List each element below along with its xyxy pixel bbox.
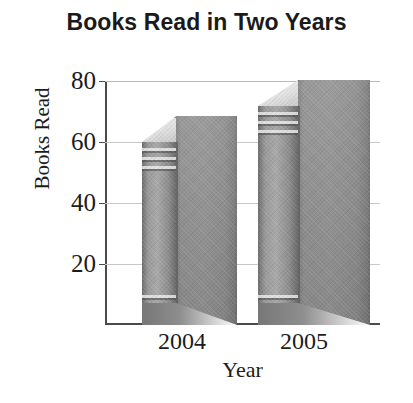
x-tick-label-2005: 2005 [249, 328, 359, 355]
bar-2004-spine-seam [176, 142, 178, 325]
y-tick-label-60: 60 [71, 128, 105, 156]
bar-2004-cover [176, 116, 237, 325]
y-axis-title: Books Read [30, 59, 55, 219]
x-axis-title: Year [105, 357, 380, 383]
bar-2005-spine [258, 106, 298, 325]
bar-2005[interactable] [258, 80, 370, 325]
bar-2004[interactable] [142, 116, 237, 325]
bar-2005-cover [298, 80, 370, 325]
bar-2005-spine-texture [258, 106, 298, 325]
plot-area: 80 60 40 20 [105, 81, 380, 325]
bar-2005-spine-seam [298, 106, 300, 325]
bar-2004-spine-bands-top [142, 148, 176, 172]
chart-container: Books Read in Two Years Books Read 80 60… [0, 0, 413, 403]
y-tick-label-20: 20 [71, 250, 105, 278]
y-tick-label-40: 40 [71, 189, 105, 217]
chart-title: Books Read in Two Years [0, 9, 413, 36]
bar-2004-cover-shade [176, 116, 237, 325]
bar-2005-spine-bands-top [258, 112, 298, 136]
bar-2005-cover-shade [298, 80, 370, 325]
y-tick-label-80: 80 [71, 67, 105, 95]
bar-2004-spine [142, 142, 176, 325]
x-tick-label-2004: 2004 [127, 328, 237, 355]
